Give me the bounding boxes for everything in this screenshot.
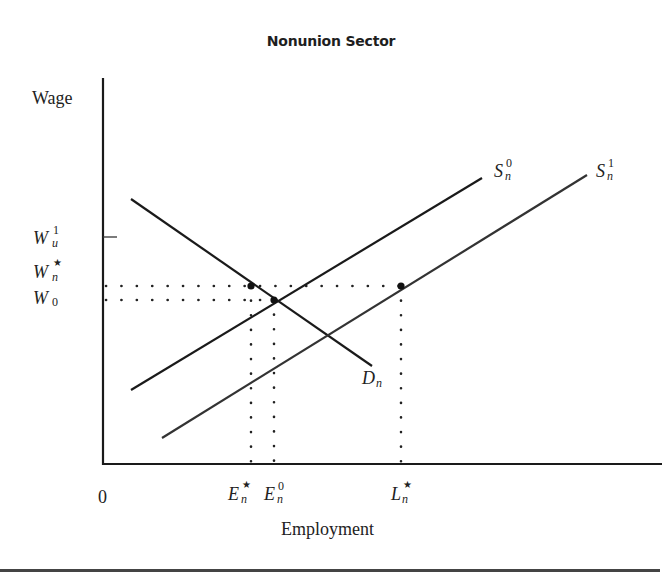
y-tick-w0: W0 bbox=[33, 289, 48, 307]
supply-curve-sn1 bbox=[162, 175, 587, 438]
x-tick-en-star: E★n bbox=[228, 485, 239, 503]
origin-label: 0 bbox=[98, 488, 107, 506]
x-tick-ln-star: L★n bbox=[391, 485, 401, 503]
point-equilibrium-e0 bbox=[270, 296, 277, 303]
bottom-rule bbox=[0, 569, 660, 572]
curve-label-sn1: S1n bbox=[596, 162, 605, 180]
y-axis-label: Wage bbox=[32, 89, 73, 107]
supply-curve-sn0 bbox=[131, 178, 482, 390]
y-tick-wn-star: W★n bbox=[33, 263, 48, 281]
curve-label-dn: Dn bbox=[362, 369, 375, 387]
curve-label-sn0: S0n bbox=[494, 162, 503, 180]
point-ln-star bbox=[397, 282, 404, 289]
point-en-star bbox=[247, 282, 254, 289]
x-axis-label: Employment bbox=[281, 520, 374, 538]
x-tick-en0: E0n bbox=[264, 485, 275, 503]
y-tick-wu1: W1u bbox=[33, 229, 48, 247]
